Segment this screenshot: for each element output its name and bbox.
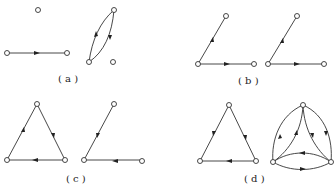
panel-c: ( c )	[5, 102, 145, 185]
vertex	[111, 60, 116, 65]
arrow-icon	[32, 158, 38, 162]
vertex	[36, 8, 41, 13]
arrow-icon	[300, 167, 306, 171]
vertex	[198, 159, 203, 164]
vertex	[301, 103, 306, 108]
vertex	[140, 159, 145, 164]
panel-label-a: ( a )	[58, 73, 78, 84]
vertex	[196, 62, 201, 67]
vertex	[252, 62, 257, 67]
vertex	[266, 62, 271, 67]
vertex	[82, 158, 87, 163]
panel-d: ( d )	[198, 103, 334, 185]
vertex	[329, 160, 334, 165]
vertex	[227, 103, 232, 108]
arrow-icon	[226, 159, 232, 163]
arrow-icon	[212, 131, 216, 136]
vertex	[35, 102, 40, 107]
panel-b: ( b )	[196, 14, 327, 87]
vertex	[112, 102, 117, 107]
vertex	[5, 158, 10, 163]
vertex	[322, 62, 327, 67]
arrow-icon	[294, 62, 300, 66]
panel-label-b: ( b )	[238, 75, 259, 86]
arrow-icon	[34, 51, 40, 55]
vertex	[224, 14, 229, 19]
vertex	[87, 60, 92, 65]
panel-a: ( a )	[5, 8, 117, 85]
vertex	[295, 14, 300, 19]
arrow-icon	[224, 62, 230, 66]
arrow-icon	[324, 131, 328, 136]
vertex	[271, 160, 276, 165]
vertex	[5, 51, 10, 56]
panel-label-c: ( c )	[66, 173, 86, 184]
arrow-icon	[108, 35, 112, 40]
vertex	[254, 159, 259, 164]
vertex	[65, 51, 70, 56]
arrow-icon	[51, 133, 55, 138]
panel-label-d: ( d )	[244, 173, 265, 184]
arrow-icon	[299, 151, 305, 155]
vertex	[112, 8, 117, 13]
arrow-icon	[278, 134, 282, 139]
graph-figure: ( a ) ( b ) ( c )	[0, 0, 336, 186]
vertex	[63, 158, 68, 163]
arrow-icon	[243, 135, 247, 140]
